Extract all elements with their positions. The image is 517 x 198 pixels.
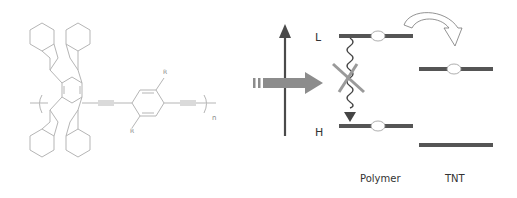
homo-label: H [315,126,323,139]
tnt-label: TNT [445,173,465,184]
lumo-label: L [315,31,321,44]
polymer-label: Polymer [360,173,401,184]
energy-diagram [0,0,517,198]
figure: R R n L H Polymer TNT [0,0,517,198]
